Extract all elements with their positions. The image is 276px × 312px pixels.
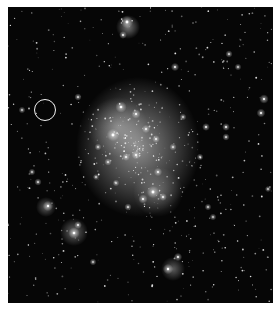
highlight-circle-marker: [34, 99, 56, 121]
star-cluster-image: [8, 7, 273, 303]
star-field: [8, 7, 273, 303]
